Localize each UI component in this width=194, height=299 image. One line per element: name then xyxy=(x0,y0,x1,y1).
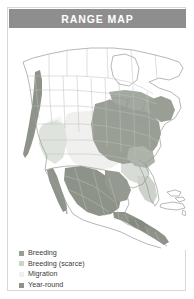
range-map-legend: Breeding Breeding (scarce) Migration Yea… xyxy=(19,248,139,290)
legend-item-migration[interactable]: Migration xyxy=(19,269,139,280)
color-swatch-icon xyxy=(19,251,24,256)
map-graphic xyxy=(9,28,186,250)
color-swatch-icon xyxy=(19,261,24,266)
legend-item-label: Breeding (scarce) xyxy=(28,259,85,270)
legend-item-year-round[interactable]: Year-round xyxy=(19,280,139,291)
page-title: RANGE MAP xyxy=(61,13,133,25)
color-swatch-icon xyxy=(19,272,24,277)
color-swatch-icon xyxy=(19,283,24,288)
legend-item-label: Migration xyxy=(28,269,58,280)
legend-item-breeding[interactable]: Breeding xyxy=(19,248,139,259)
north-america-map xyxy=(9,28,186,250)
legend-item-breeding-scarce[interactable]: Breeding (scarce) xyxy=(19,259,139,270)
legend-item-label: Breeding xyxy=(28,248,57,259)
range-map-title-bar: RANGE MAP xyxy=(9,9,186,28)
legend-item-label: Year-round xyxy=(28,280,63,291)
range-map-panel: RANGE MAP xyxy=(7,7,186,291)
